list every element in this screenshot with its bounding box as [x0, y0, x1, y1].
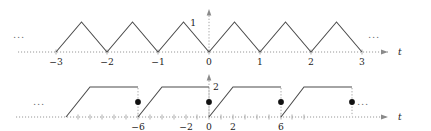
trapezoidal-wave-panel: 2 ... ... t −6 −2 0 2 6 — [16, 74, 402, 131]
top-xtick-label: 2 — [308, 56, 314, 67]
top-x-axis-label: t — [398, 46, 402, 57]
bottom-peak-label: 2 — [213, 81, 219, 92]
bottom-xtick-label: 0 — [206, 121, 212, 131]
top-y-axis-arrow — [207, 9, 212, 16]
top-x-tick-labels: −3 −2 −1 0 1 2 3 — [49, 56, 365, 67]
bottom-x-axis-label: t — [398, 111, 402, 122]
top-right-ellipsis: ... — [368, 29, 380, 40]
bottom-x-tick-labels: −6 −2 0 2 6 — [131, 121, 284, 131]
bottom-xtick-label: 6 — [278, 121, 284, 131]
top-x-axis-arrow — [381, 49, 388, 54]
bottom-x-axis-arrow — [381, 114, 388, 119]
discontinuity-dots — [135, 99, 355, 105]
triangular-wave-panel: 1 ... ... t −3 −2 −1 0 1 2 3 — [13, 9, 402, 67]
top-xtick-label: 0 — [206, 56, 212, 67]
figure-container: 1 ... ... t −3 −2 −1 0 1 2 3 — [0, 0, 431, 131]
discontinuity-dot — [135, 99, 141, 105]
top-peak-label: 1 — [190, 17, 196, 28]
discontinuity-drop-lines — [138, 88, 352, 116]
top-xtick-label: −1 — [151, 56, 165, 67]
waveform-figure-svg: 1 ... ... t −3 −2 −1 0 1 2 3 — [0, 0, 431, 131]
discontinuity-dot — [349, 99, 355, 105]
bottom-left-ellipsis: ... — [33, 96, 45, 107]
discontinuity-dot — [206, 99, 212, 105]
top-xtick-label: −2 — [100, 56, 114, 67]
bottom-y-axis-arrow — [207, 74, 212, 81]
top-left-ellipsis: ... — [13, 29, 25, 40]
top-xtick-label: −3 — [49, 56, 63, 67]
discontinuity-dot — [278, 99, 284, 105]
bottom-xtick-label: 2 — [230, 121, 236, 131]
bottom-right-ellipsis: ... — [357, 96, 369, 107]
trapezoid-segment — [281, 87, 352, 117]
top-xtick-label: 3 — [359, 56, 365, 67]
bottom-xtick-label: −2 — [179, 121, 193, 131]
trapezoid-segment — [66, 87, 138, 117]
top-xtick-label: 1 — [257, 56, 263, 67]
trapezoid-segment — [138, 87, 209, 117]
trapezoid-segment — [209, 87, 281, 117]
bottom-xtick-label: −6 — [131, 121, 145, 131]
